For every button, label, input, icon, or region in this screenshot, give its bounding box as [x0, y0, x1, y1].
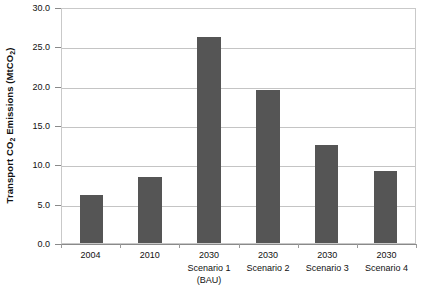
x-axis-tick-mark [179, 244, 180, 248]
plot-area [61, 8, 416, 244]
x-axis-tick-label-line: Scenario 3 [298, 262, 357, 275]
y-axis-tick-label: 30.0 [32, 3, 50, 13]
x-axis-tick-mark [357, 244, 358, 248]
bar[interactable] [315, 145, 339, 243]
x-axis-tick-label-line: Scenario 2 [239, 262, 298, 275]
y-axis-tick-label: 20.0 [32, 82, 50, 92]
y-axis-title-mid: Emissions (MtCO [4, 54, 15, 137]
y-axis-tick-mark [55, 8, 61, 9]
x-axis-tick-mark [298, 244, 299, 248]
x-axis-tick-label-line: 2030 [298, 249, 357, 262]
y-axis-tick-mark [55, 165, 61, 166]
bar-slot [238, 9, 297, 243]
bar[interactable] [197, 37, 221, 243]
x-axis-tick-label-line: 2004 [61, 249, 120, 262]
x-axis-tick-label: 2030Scenario 1(BAU) [179, 249, 238, 287]
x-axis-tick-label: 2004 [61, 249, 120, 287]
y-axis-tick-label: 15.0 [32, 121, 50, 131]
x-axis-tick-label-line: 2030 [179, 249, 238, 262]
y-axis-title-sub-2: 2 [9, 50, 16, 54]
x-axis-tick-mark [239, 244, 240, 248]
bar[interactable] [80, 195, 104, 243]
y-axis-tick-mark [55, 126, 61, 127]
bar-chart-figure: Transport CO2 Emissions (MtCO2) 0.05.010… [0, 0, 429, 301]
x-axis-tick-label: 2030Scenario 3 [298, 249, 357, 287]
x-axis-tick-mark [120, 244, 121, 248]
y-axis-title-pre: Transport CO [4, 141, 15, 203]
x-axis-tick-label: 2030Scenario 2 [239, 249, 298, 287]
x-axis-tick-mark [416, 244, 417, 248]
y-axis-title: Transport CO2 Emissions (MtCO2) [0, 0, 20, 250]
bar[interactable] [374, 171, 398, 243]
bar[interactable] [256, 90, 280, 243]
x-axis-tick-label-line: 2010 [120, 249, 179, 262]
x-axis-tick-labels: 200420102030Scenario 1(BAU)2030Scenario … [61, 249, 416, 287]
bar-slot [356, 9, 415, 243]
bar-slot [180, 9, 239, 243]
y-axis-tick-mark [55, 47, 61, 48]
bar[interactable] [138, 177, 162, 243]
x-axis-tick-mark [61, 244, 62, 248]
y-axis-tick-label: 5.0 [37, 200, 50, 210]
y-axis-tick-mark [55, 87, 61, 88]
x-axis-tick-label-line: Scenario 1 [179, 262, 238, 275]
x-axis-tick-label: 2010 [120, 249, 179, 287]
y-axis-title-text: Transport CO2 Emissions (MtCO2) [4, 47, 17, 203]
y-axis-tick-labels: 0.05.010.015.020.025.030.0 [18, 8, 54, 244]
y-axis-tick-label: 25.0 [32, 42, 50, 52]
x-axis-tick-label-line: 2030 [239, 249, 298, 262]
x-axis-tick-label: 2030Scenario 4 [357, 249, 416, 287]
y-axis-tick-mark [55, 205, 61, 206]
x-axis-tick-label-line: Scenario 4 [357, 262, 416, 275]
bar-slot [121, 9, 180, 243]
bar-slot [62, 9, 121, 243]
y-axis-tick-label: 10.0 [32, 160, 50, 170]
x-axis-tick-label-line: 2030 [357, 249, 416, 262]
x-axis-tick-label-line: (BAU) [179, 274, 238, 287]
y-axis-title-sub-1: 2 [9, 137, 16, 141]
y-axis-tick-label: 0.0 [37, 239, 50, 249]
bar-slot [297, 9, 356, 243]
bars-container [62, 9, 415, 243]
y-axis-title-post: ) [4, 47, 15, 50]
